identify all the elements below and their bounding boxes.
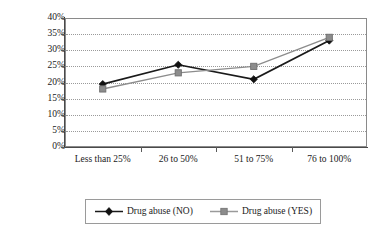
y-axis-tick-mark xyxy=(61,34,65,35)
legend-entry-drug-abuse-yes: Drug abuse (YES) xyxy=(209,206,312,217)
legend-marker-diamond-icon xyxy=(94,206,124,217)
y-axis-tick-mark xyxy=(61,131,65,132)
legend-label: Drug abuse (NO) xyxy=(127,207,193,217)
legend-marker-square-icon xyxy=(209,206,239,217)
gridline xyxy=(66,83,366,84)
legend-label: Drug abuse (YES) xyxy=(242,207,312,217)
gridline xyxy=(66,50,366,51)
gridline xyxy=(66,115,366,116)
plot-area xyxy=(65,18,367,147)
gridline xyxy=(66,34,366,35)
y-axis-tick-mark xyxy=(61,83,65,84)
x-axis-tick-mark xyxy=(216,147,217,152)
y-axis-tick-mark xyxy=(61,115,65,116)
x-axis-tick-label: 76 to 100% xyxy=(307,155,351,165)
gridline xyxy=(66,66,366,67)
x-axis-tick-mark xyxy=(141,147,142,152)
legend-entry-drug-abuse-no: Drug abuse (NO) xyxy=(94,206,193,217)
x-axis-tick-mark xyxy=(292,147,293,152)
x-axis-tick-label: 51 to 75% xyxy=(234,155,273,165)
chart-figure: 0%5%10%15%20%25%30%35%40% Less than 25%2… xyxy=(0,0,379,241)
gridline xyxy=(66,99,366,100)
y-axis-tick-mark xyxy=(61,18,65,19)
legend: Drug abuse (NO) Drug abuse (YES) xyxy=(85,199,321,224)
y-axis-tick-mark xyxy=(61,66,65,67)
y-axis-tick-mark xyxy=(61,99,65,100)
x-axis-tick-label: 26 to 50% xyxy=(159,155,198,165)
y-axis-tick-mark xyxy=(61,147,65,148)
y-axis-tick-mark xyxy=(61,50,65,51)
gridline xyxy=(66,131,366,132)
x-axis-tick-label: Less than 25% xyxy=(75,155,131,165)
